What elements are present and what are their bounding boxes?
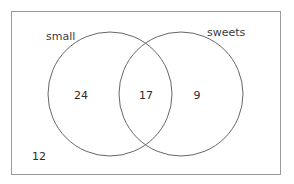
left-only-count: 24 bbox=[74, 89, 88, 102]
right-only-count: 9 bbox=[194, 89, 201, 102]
venn-diagram-canvas: small sweets 24 17 9 12 bbox=[0, 0, 294, 184]
right-set-label: sweets bbox=[207, 26, 246, 39]
venn-diagram-page: small sweets 24 17 9 12 bbox=[0, 0, 294, 184]
intersection-count: 17 bbox=[139, 89, 153, 102]
outside-count: 12 bbox=[32, 150, 46, 163]
left-set-label: small bbox=[46, 30, 75, 43]
